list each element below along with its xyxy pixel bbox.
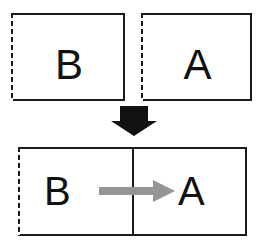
box-a-top-label: A [143,44,252,86]
dashed-left-edge-icon [18,147,20,236]
right-block-arrow-icon [99,179,175,203]
diagram-canvas: B A B A [0,0,266,250]
box-b-top-label: B [13,44,125,86]
box-a-top: A [143,13,252,101]
box-b-top: B [13,13,125,101]
down-block-arrow-icon [110,106,158,136]
box-combined-left-label: B [44,171,71,211]
box-combined-right-label: A [178,171,205,211]
